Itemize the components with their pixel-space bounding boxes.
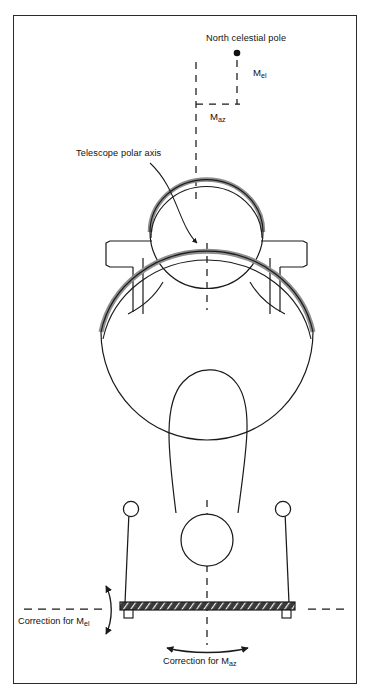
correction-maz-base: Correction for M xyxy=(163,656,229,666)
correction-mel-base: Correction for M xyxy=(18,616,84,626)
correction-for-maz-label: Correction for Maz xyxy=(163,657,237,668)
base-plate xyxy=(120,602,295,610)
mel-correction-arrow xyxy=(106,586,111,634)
telescope-diagram xyxy=(0,0,371,699)
mel-subscript: el xyxy=(261,72,267,80)
maz-label: Maz xyxy=(210,112,226,124)
yoke-counterweight xyxy=(169,370,247,513)
correction-for-mel-label: Correction for Mel xyxy=(18,617,90,628)
correction-maz-subscript: az xyxy=(229,660,237,668)
mel-base: M xyxy=(253,67,261,78)
mel-label: Mel xyxy=(253,68,267,80)
right-trunnion-bearing xyxy=(275,501,290,516)
correction-mel-subscript: el xyxy=(84,620,90,628)
maz-base: M xyxy=(210,111,218,122)
left-trunnion-bearing xyxy=(123,501,138,516)
maz-subscript: az xyxy=(218,116,226,124)
telescope-polar-axis-label: Telescope polar axis xyxy=(76,149,161,158)
anchor-feet xyxy=(124,610,291,618)
maz-correction-arrow xyxy=(167,648,248,653)
pole-offset-guides xyxy=(196,60,240,104)
primary-dish xyxy=(101,251,313,440)
north-celestial-pole-marker xyxy=(234,50,241,57)
north-celestial-pole-label: North celestial pole xyxy=(206,34,286,43)
azimuth-bearing xyxy=(181,514,233,566)
